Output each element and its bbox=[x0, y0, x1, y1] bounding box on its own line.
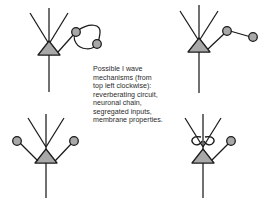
interneuron-circle-left bbox=[13, 137, 22, 146]
panel-top-left bbox=[30, 8, 101, 92]
oblique-dendrite-right bbox=[199, 11, 218, 41]
circuit-top-right bbox=[208, 27, 257, 49]
interneuron-circle bbox=[227, 137, 236, 146]
collateral-to-interneuron-1 bbox=[208, 32, 226, 49]
figure-caption: Possible I wave mechanisms (from top lef… bbox=[93, 65, 163, 125]
soma-triangle bbox=[192, 149, 214, 163]
oblique-dendrite-left bbox=[30, 13, 49, 44]
interneuron-circle-1 bbox=[72, 28, 81, 37]
circuit-bottom-right bbox=[212, 137, 235, 160]
soma-triangle bbox=[38, 41, 60, 55]
neuron-top-left bbox=[30, 8, 68, 92]
panel-bottom-right bbox=[185, 114, 235, 198]
collateral-to-interneuron bbox=[212, 143, 229, 160]
input-line-left bbox=[20, 143, 38, 161]
oblique-dendrite-left bbox=[180, 11, 199, 41]
collateral-to-interneuron-1 bbox=[58, 33, 75, 52]
interneuron-circle-2 bbox=[93, 40, 102, 49]
panel-bottom-left bbox=[13, 114, 79, 198]
interneuron-1-to-interneuron-2 bbox=[230, 31, 251, 37]
circuit-top-left bbox=[58, 25, 101, 52]
oblique-dendrite-left bbox=[28, 118, 46, 147]
soma-triangle bbox=[35, 149, 57, 163]
interneuron-circle-1 bbox=[223, 27, 232, 36]
soma-triangle bbox=[188, 38, 210, 52]
oblique-dendrite-right bbox=[46, 118, 64, 147]
interneuron-circle-2 bbox=[249, 33, 258, 42]
neuron-top-right bbox=[180, 5, 218, 93]
figure-canvas: Possible I wave mechanisms (from top lef… bbox=[0, 0, 266, 206]
interneuron-circle-right bbox=[70, 137, 79, 146]
oblique-dendrite-right bbox=[49, 13, 68, 44]
input-line-right bbox=[55, 143, 72, 161]
panel-top-right bbox=[180, 5, 257, 93]
